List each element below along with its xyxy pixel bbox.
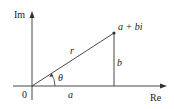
radius-label: r: [70, 45, 74, 56]
origin-label: 0: [22, 89, 27, 100]
imaginary-axis-arrow-icon: [30, 11, 35, 18]
imaginary-part-label: b: [117, 57, 122, 68]
radius-segment: [32, 33, 114, 86]
imaginary-axis-label: Im: [14, 9, 25, 20]
point-label: a + bi: [118, 21, 143, 32]
real-part-label: a: [68, 89, 73, 100]
real-axis-arrow-icon: [160, 84, 167, 89]
real-axis-label: Re: [150, 92, 162, 103]
complex-plane-diagram: Im Re 0 a + bi r a b θ: [0, 0, 174, 109]
angle-label: θ: [58, 72, 63, 83]
complex-point: [112, 31, 115, 34]
